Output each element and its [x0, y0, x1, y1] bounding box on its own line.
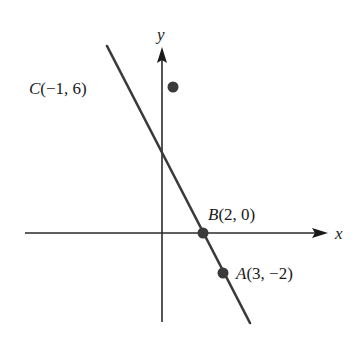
line-abc: [107, 46, 250, 323]
point-c-letter: C: [29, 79, 41, 98]
point-a-coords: (3, −2): [246, 264, 292, 283]
point-b-letter: B: [208, 205, 219, 224]
point-c-coords: (−1, 6): [40, 79, 86, 98]
point-c-label: C(−1, 6): [29, 79, 87, 98]
point-b-label: B(2, 0): [208, 205, 255, 224]
point-a: [218, 268, 229, 279]
point-b: [198, 228, 209, 239]
coordinate-plane-diagram: y x C(−1, 6) B(2, 0) A(3, −2): [0, 0, 359, 338]
point-b-coords: (2, 0): [218, 205, 255, 224]
point-a-letter: A: [235, 264, 247, 283]
y-axis-label: y: [155, 25, 165, 44]
x-axis-label: x: [334, 224, 343, 243]
point-c: [168, 82, 179, 93]
point-a-label: A(3, −2): [235, 264, 293, 283]
